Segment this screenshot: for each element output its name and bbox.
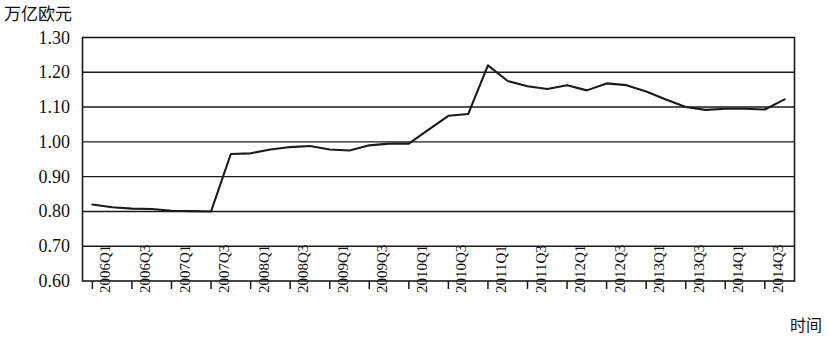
gridlines (83, 72, 795, 246)
plot-area (0, 0, 829, 358)
data-series-line (92, 65, 784, 211)
x-axis-tick-marks (92, 281, 764, 289)
chart-container: 万亿欧元 时间 1.301.201.101.000.900.800.700.60… (0, 0, 829, 358)
plot-frame (83, 38, 795, 282)
